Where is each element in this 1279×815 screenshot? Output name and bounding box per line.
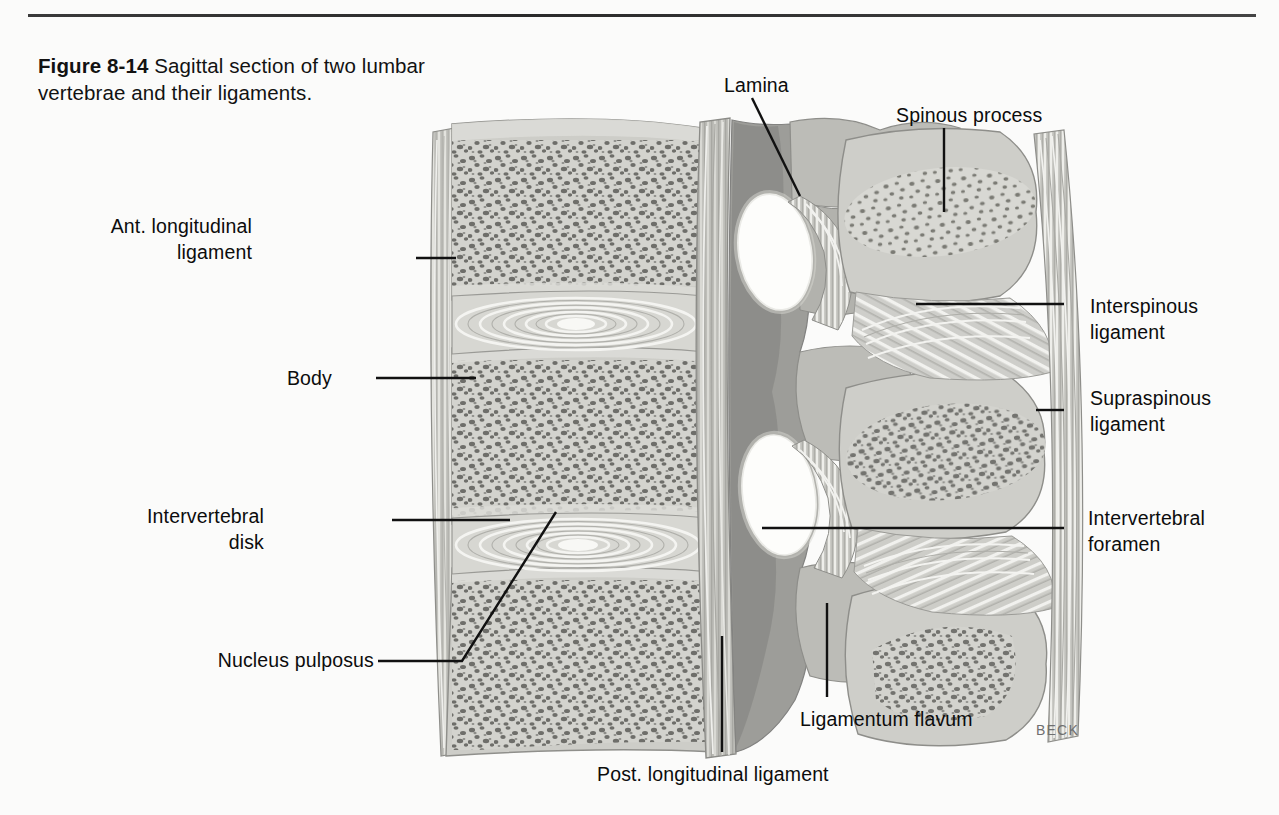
label-spinous-process: Spinous process (896, 103, 1042, 129)
label-supraspinous-ligament: Supraspinous ligament (1090, 386, 1211, 438)
intervertebral-disk-lower (452, 513, 711, 574)
label-ligamentum-flavum: Ligamentum flavum (800, 707, 973, 733)
vertebral-body-lower (446, 563, 720, 756)
label-nucleus-pulposus: Nucleus pulposus (18, 648, 374, 674)
label-post-longitudinal-ligament: Post. longitudinal ligament (597, 762, 829, 788)
intervertebral-disk-upper (452, 291, 706, 354)
vertebral-body-upper (452, 119, 710, 300)
label-intervertebral-foramen: Intervertebral foramen (1088, 506, 1205, 558)
label-intervertebral-disk: Intervertebral disk (74, 504, 264, 556)
label-interspinous-ligament: Interspinous ligament (1090, 294, 1198, 346)
vertebral-body-middle (452, 343, 714, 524)
anatomical-illustration (0, 0, 1279, 815)
spinous-process-upper (838, 128, 1040, 303)
nucleus-pulposus-lower (558, 539, 598, 551)
figure-page: Figure 8-14 Sagittal section of two lumb… (0, 0, 1279, 815)
artist-signature: BECK (1036, 722, 1079, 738)
label-lamina: Lamina (724, 73, 789, 99)
label-body: Body (182, 366, 332, 392)
label-ant-longitudinal-ligament: Ant. longitudinal ligament (62, 214, 252, 266)
spinous-process-middle (839, 372, 1050, 539)
nucleus-pulposus-upper (557, 318, 595, 330)
